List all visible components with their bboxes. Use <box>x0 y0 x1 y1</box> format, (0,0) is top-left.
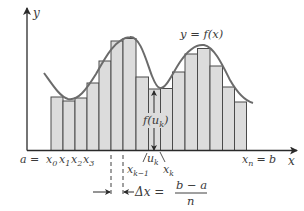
f-uk-label: f(uk) <box>142 113 169 129</box>
x0-label: x0 <box>46 153 57 168</box>
fraction-denominator: n <box>187 194 194 208</box>
riemann-bar-3 <box>87 83 99 151</box>
riemann-bar-4 <box>99 61 111 151</box>
riemann-bar-15 <box>235 102 247 151</box>
riemann-bar-12 <box>198 49 211 151</box>
x1-label: x1 <box>59 153 70 168</box>
fraction-numerator: b − a <box>176 178 207 192</box>
delta-x-label: Δx = <box>134 185 164 199</box>
riemann-bar-1 <box>63 101 75 151</box>
x-axis-label: x <box>288 154 295 168</box>
x3-label: x3 <box>83 153 94 168</box>
x2-label: x2 <box>71 153 82 168</box>
a-equals-label: a = <box>20 153 39 166</box>
riemann-bar-0 <box>51 97 63 151</box>
riemann-sum-diagram: y x y = f(x) f(uk) a = x0 x1 x2 x3 xk−1 … <box>0 0 304 211</box>
xn-equals-b-label: xn= b <box>242 153 276 168</box>
riemann-bar-14 <box>223 87 235 151</box>
xk-label: xk <box>163 163 174 178</box>
uk-label: uk <box>147 152 159 167</box>
y-axis-label: y <box>32 6 40 20</box>
xk-pointer <box>160 152 165 162</box>
riemann-bar-11 <box>185 54 198 151</box>
riemann-bar-2 <box>75 98 87 151</box>
xk-minus-1-label: xk−1 <box>127 163 149 178</box>
curve-label: y = f(x) <box>179 27 223 41</box>
riemann-bar-10 <box>173 72 186 151</box>
riemann-bar-5 <box>111 41 123 151</box>
riemann-bar-13 <box>210 66 223 151</box>
riemann-bar-6 <box>123 39 136 151</box>
